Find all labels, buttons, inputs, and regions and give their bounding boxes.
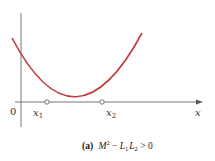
parabola-curve xyxy=(12,33,142,97)
x-axis-arrow-icon xyxy=(196,100,203,105)
x1-label: x1 xyxy=(33,107,43,120)
parabola-figure: 0 x1 x2 x (a) M2 − L1L2 > 0 xyxy=(0,0,215,161)
figure-caption: (a) M2 − L1L2 > 0 xyxy=(82,139,153,152)
x2-label: x2 xyxy=(106,107,116,120)
root-x2-marker xyxy=(100,100,104,104)
origin-label: 0 xyxy=(10,106,16,117)
x-axis-label: x xyxy=(195,107,201,118)
root-x1-marker xyxy=(45,100,49,104)
